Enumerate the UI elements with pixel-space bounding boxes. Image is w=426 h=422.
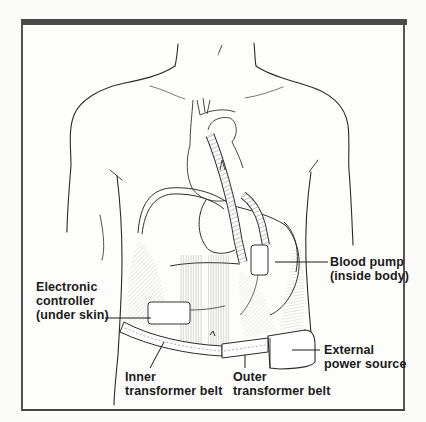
label-electronic-controller-line1: Electronic [36, 280, 109, 294]
torso-left [114, 176, 122, 405]
label-outer-belt-line1: Outer [233, 370, 330, 384]
label-electronic-controller-line2: controller [36, 294, 109, 308]
blood-pump-device [251, 245, 268, 275]
torso-right [306, 172, 312, 345]
label-electronic-controller: Electronic controller (under skin) [36, 280, 109, 322]
inflow-graft [243, 195, 266, 245]
neck-left [175, 44, 178, 66]
neck-right [254, 43, 256, 66]
label-inner-belt-line2: transformer belt [125, 384, 222, 398]
electronic-controller-device [148, 302, 190, 324]
shoulder-right [256, 66, 353, 245]
label-inner-belt-line1: Inner [125, 370, 222, 384]
label-electronic-controller-line3: (under skin) [36, 308, 109, 322]
label-outer-belt-line2: transformer belt [233, 384, 330, 398]
label-external-power-line1: External [324, 343, 406, 357]
label-blood-pump: Blood pump (inside body) [330, 255, 409, 283]
label-external-power-source: External power source [324, 343, 406, 371]
label-outer-transformer-belt: Outer transformer belt [233, 370, 330, 398]
label-blood-pump-line1: Blood pump [330, 255, 409, 269]
shoulder-left [67, 66, 175, 232]
label-blood-pump-line2: (inside body) [330, 269, 409, 283]
label-external-power-line2: power source [324, 357, 406, 371]
inner-transformer-belt [120, 322, 222, 356]
label-inner-transformer-belt: Inner transformer belt [125, 370, 222, 398]
